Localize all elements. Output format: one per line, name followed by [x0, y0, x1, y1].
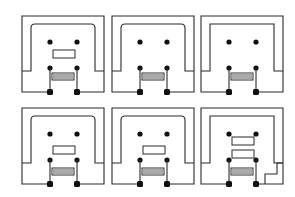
grate — [52, 168, 74, 175]
column-dot — [47, 39, 52, 44]
panel-top-3 — [201, 16, 283, 95]
entry-post — [47, 181, 53, 187]
entry-post — [74, 89, 80, 95]
column-dot — [164, 131, 169, 136]
column-dot — [47, 131, 52, 136]
table-rect — [53, 146, 75, 154]
entry-post — [74, 181, 80, 187]
panel-bottom-2 — [112, 108, 194, 187]
column-dot — [226, 39, 231, 44]
table-rect — [232, 137, 254, 145]
table-rect — [232, 150, 254, 158]
grate — [142, 73, 164, 80]
entry-post — [164, 89, 170, 95]
inner-wall — [22, 24, 104, 71]
table-rect — [53, 50, 75, 58]
floor-plan-diagram — [0, 0, 295, 197]
entry-post — [164, 181, 170, 187]
grate — [142, 168, 164, 175]
inner-wall — [201, 24, 283, 71]
grate — [231, 73, 253, 80]
column-dot — [74, 39, 79, 44]
panel-bottom-3 — [201, 108, 283, 187]
panel-bottom-1 — [22, 108, 104, 187]
inner-wall — [112, 116, 194, 163]
panel-top-2 — [112, 16, 194, 95]
grate — [231, 168, 253, 175]
entry-post — [226, 89, 232, 95]
inner-wall — [112, 24, 194, 71]
column-dot — [74, 131, 79, 136]
corner-notch-wall — [265, 163, 283, 184]
column-dot — [226, 131, 231, 136]
inner-wall — [22, 116, 104, 163]
entry-post — [253, 181, 259, 187]
entry-post — [137, 181, 143, 187]
column-dot — [164, 39, 169, 44]
entry-post — [226, 181, 232, 187]
table-rect — [143, 146, 165, 154]
entry-post — [47, 89, 53, 95]
outer-wall — [112, 16, 194, 92]
column-dot — [137, 131, 142, 136]
grate — [52, 73, 74, 80]
outer-wall — [201, 16, 283, 92]
column-dot — [253, 39, 258, 44]
column-dot — [137, 39, 142, 44]
panel-top-1 — [22, 16, 104, 95]
entry-post — [253, 89, 259, 95]
entry-post — [137, 89, 143, 95]
column-dot — [253, 131, 258, 136]
